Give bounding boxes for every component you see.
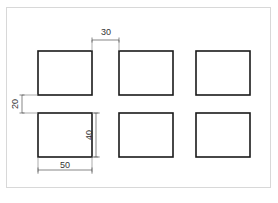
rectangle-r2c2: [119, 113, 173, 157]
technical-drawing-canvas: 30204050: [0, 0, 278, 203]
rectangle-r1c3: [196, 51, 250, 95]
dimension-label-20: 20: [10, 99, 20, 109]
rectangle-r1c2: [119, 51, 173, 95]
screenshot-root: 30204050: [0, 0, 278, 203]
dimension-dim-30: 30: [92, 27, 119, 51]
dimension-label-50: 50: [60, 160, 70, 170]
dimension-label-30: 30: [101, 27, 111, 37]
dimension-dim-20: 20: [10, 95, 38, 113]
rectangle-r1c1: [38, 51, 92, 95]
rectangle-array-layer: [38, 51, 250, 157]
dimension-dim-50: 50: [38, 157, 92, 174]
rectangle-r2c3: [196, 113, 250, 157]
dimension-label-40: 40: [84, 130, 94, 140]
